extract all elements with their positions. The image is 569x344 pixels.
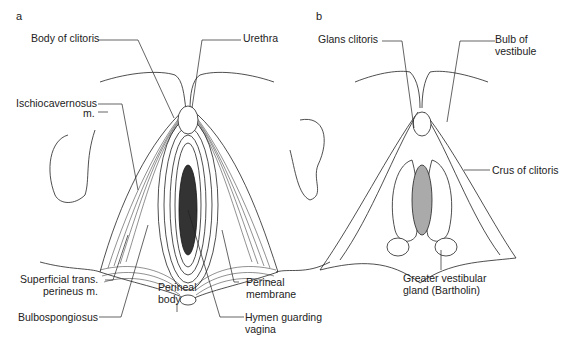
label-bulbospongiosus: Bulbospongiosus xyxy=(18,311,98,323)
label-bulb-of-vestibule-2: vestibule xyxy=(495,45,536,57)
label-hymen-2: vagina xyxy=(245,323,276,335)
label-perineal-body: Perineal xyxy=(158,281,197,293)
label-bulb-of-vestibule: Bulb of xyxy=(495,33,528,45)
label-greater-vestibular-gland-2: gland (Bartholin) xyxy=(403,284,480,296)
label-ischiocavernosus-m: m. xyxy=(83,107,95,119)
label-perineus-m: perineus m. xyxy=(43,285,98,297)
panel-b-drawing xyxy=(320,71,516,283)
panel-letter-b: b xyxy=(316,10,322,22)
label-perineal-membrane-2: membrane xyxy=(246,288,296,300)
label-body-of-clitoris: Body of clitoris xyxy=(31,32,99,44)
label-perineal-body-2: body xyxy=(158,293,181,305)
label-glans-clitoris: Glans clitoris xyxy=(318,33,378,45)
label-greater-vestibular-gland: Greater vestibular xyxy=(403,272,486,284)
label-urethra: Urethra xyxy=(243,32,278,44)
label-crus-of-clitoris: Crus of clitoris xyxy=(492,164,559,176)
label-superficial-trans: Superficial trans. xyxy=(20,273,98,285)
panel-letter-a: a xyxy=(16,10,22,22)
label-perineal-membrane: Perineal xyxy=(246,276,285,288)
label-hymen: Hymen guarding xyxy=(245,311,322,323)
